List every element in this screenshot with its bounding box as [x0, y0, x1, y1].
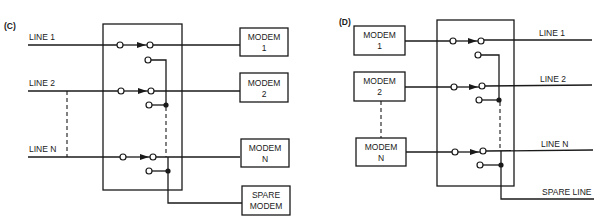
switch-terminal [451, 84, 457, 90]
switch-terminal [147, 42, 153, 48]
svg-text:MODEM: MODEM [248, 32, 281, 42]
panel-label-d: (D) [339, 17, 351, 27]
spare-terminal [146, 168, 152, 174]
switch-terminal [450, 38, 456, 44]
svg-text:2: 2 [377, 87, 382, 97]
svg-text:MODEM: MODEM [363, 30, 396, 40]
line-2-label-d: LINE 2 [540, 74, 566, 84]
switch-terminal [452, 149, 458, 155]
svg-text:MODEM: MODEM [250, 201, 283, 211]
svg-text:2: 2 [262, 89, 267, 99]
switch-terminal [478, 38, 484, 44]
junction-dot [496, 97, 501, 102]
switch-terminal [117, 42, 123, 48]
spare-terminal [475, 52, 481, 58]
switch-terminal [118, 88, 124, 94]
line-1-label-d: LINE 1 [539, 28, 565, 38]
svg-text:N: N [378, 153, 384, 163]
line-1-label-c: LINE 1 [29, 32, 55, 42]
svg-text:N: N [262, 154, 268, 164]
panel-label-c: (C) [4, 21, 16, 31]
spare-terminal [477, 162, 483, 168]
svg-text:MODEM: MODEM [248, 78, 281, 88]
spare-terminal [146, 102, 152, 108]
switch-terminal [148, 88, 154, 94]
diagram-c: (C) LINE 1 LINE 2 LINE N [4, 21, 290, 215]
switch-box-d [437, 20, 514, 186]
svg-text:MODEM: MODEM [363, 76, 396, 86]
svg-text:1: 1 [262, 43, 267, 53]
spare-terminal [145, 57, 151, 63]
diagram-d: (D) MODEM 1 MODEM 2 MODEM N LINE 1 [339, 17, 594, 199]
spare-line-label-d: SPARE LINE [542, 187, 592, 197]
switch-terminal [120, 154, 126, 160]
svg-text:SPARE: SPARE [252, 190, 281, 200]
spare-terminal [476, 97, 482, 103]
line-2-label-c: LINE 2 [29, 78, 55, 88]
switch-terminal [150, 154, 156, 160]
line-n-label-c: LINE N [29, 144, 56, 154]
svg-text:1: 1 [377, 41, 382, 51]
junction-dot [163, 102, 168, 107]
svg-text:MODEM: MODEM [249, 143, 282, 153]
diagram-canvas: (C) LINE 1 LINE 2 LINE N [0, 0, 607, 218]
switch-terminal [479, 83, 485, 89]
svg-text:MODEM: MODEM [365, 142, 398, 152]
line-n-label-d: LINE N [541, 139, 568, 149]
switch-box-c [103, 24, 182, 190]
switch-terminal [480, 148, 486, 154]
